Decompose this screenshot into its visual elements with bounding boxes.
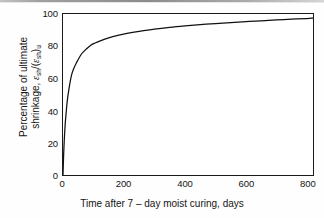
y-tick-label-20: 20	[48, 138, 58, 149]
y-tick-label-100: 100	[42, 8, 58, 19]
y-axis-symbol-epsilon-num-sub: sh	[35, 69, 42, 76]
y-tick-label-60: 60	[48, 73, 58, 84]
x-tick-label-800: 800	[300, 178, 316, 189]
shrinkage-curve-line	[63, 18, 313, 175]
y-tick-label-0: 0	[53, 170, 58, 181]
x-tick-label-600: 600	[239, 178, 255, 189]
y-axis-title-line2: shrinkage, εsh/(εsh)u	[30, 2, 43, 172]
y-axis-title-prefix: shrinkage,	[30, 80, 41, 129]
y-axis-symbol-epsilon-den-sub: sh	[35, 52, 42, 59]
scan-artifact-line-secondary	[0, 2, 324, 3]
plot-area	[62, 13, 314, 176]
y-tick-label-40: 40	[48, 106, 58, 117]
y-axis-title: Percentage of ultimate shrinkage, εsh/(ε…	[18, 2, 42, 172]
shrinkage-curve-svg	[63, 14, 313, 175]
y-axis-symbol-epsilon-num: ε	[30, 76, 41, 80]
y-axis-symbol-close-sub: u	[35, 45, 42, 49]
x-axis-title: Time after 7 – day moist curing, days	[0, 198, 324, 209]
x-tick-label-200: 200	[116, 178, 132, 189]
figure-container: 100 80 60 40 20 0 0 200 400 600 800 Time…	[0, 0, 324, 218]
x-tick-label-0: 0	[59, 178, 64, 189]
y-tick-label-80: 80	[48, 40, 58, 51]
y-axis-title-line1: Percentage of ultimate	[18, 2, 30, 172]
y-axis-symbol-epsilon-den: ε	[30, 59, 41, 63]
x-tick-label-400: 400	[177, 178, 193, 189]
